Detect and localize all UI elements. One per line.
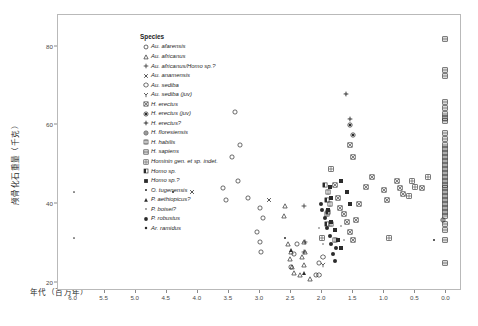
data-point [354,217,359,222]
legend-title: Species [140,33,255,40]
legend-item[interactable]: H. erectus [140,99,255,109]
data-point [319,207,324,212]
legend-item[interactable]: Homo sp.? [140,176,255,186]
legend-item[interactable]: Au. afarensis [140,42,255,52]
x-axis-tick-mark [73,290,74,293]
data-point [443,237,448,242]
x-axis-tick-mark [228,290,229,293]
legend-item[interactable]: P. aethiopicus? [140,195,255,205]
data-point [329,196,334,201]
x-axis-tick-mark [414,290,415,293]
data-point [443,170,448,175]
data-point [443,146,448,151]
legend-item-label: Au. africanus [151,52,185,61]
square-filled-icon [140,176,151,185]
data-point [317,226,321,230]
data-point [301,249,306,254]
x-axis-tick-mark [383,290,384,293]
dot-med-icon [140,224,151,233]
data-point [443,111,448,116]
triangle-open-icon [140,52,151,61]
data-point [316,273,321,278]
data-point [443,213,448,218]
legend-item-label: Au. africanus/Homo sp.? [151,62,216,71]
dot-tiny-icon [140,205,151,214]
data-point [324,225,329,230]
x-axis-tick-mark [135,290,136,293]
y-axis-tick-label: 40 [27,200,53,207]
data-point [323,182,328,187]
data-point [443,154,448,159]
legend-item-label: Hominin gen. et sp. indet. [151,157,218,166]
legend-item-label: O. tugenensis [151,186,187,195]
data-point [343,91,348,96]
legend-item-label: H. erectus? [151,119,181,128]
legend-item-label: H. erectus (juv) [151,109,191,118]
data-point [301,271,306,276]
legend-item[interactable]: H. floresiensis [140,128,255,138]
legend-item[interactable]: H. erectus (juv) [140,109,255,119]
legend-item-label: P. robustus [151,214,180,223]
data-point [327,184,332,189]
data-point [339,224,343,228]
legend-item[interactable]: Ar. ramidus [140,224,255,234]
data-point [342,238,346,242]
data-point [260,215,265,220]
y-axis-tick-mark [54,124,57,125]
legend-item[interactable]: O. tugenensis [140,185,255,195]
y-open-icon [140,90,151,99]
x-axis-tick-label: 2.5 [275,294,305,301]
data-point [443,119,448,124]
data-point [443,227,448,232]
legend-item[interactable]: Homo sp. [140,166,255,176]
legend-item-label: P. aethiopicus? [151,195,191,204]
data-point [443,174,448,179]
legend-item[interactable]: H. habilis [140,138,255,148]
data-point [257,239,262,244]
data-point [321,255,326,260]
legend-item[interactable]: Au. africanus/Homo sp.? [140,61,255,71]
legend-item[interactable]: P. robustus [140,214,255,224]
legend-item[interactable]: H. sapiens [140,147,255,157]
data-point [410,178,415,183]
data-point [326,209,331,214]
data-point [347,117,352,122]
legend-item[interactable]: Au. africanus [140,52,255,62]
data-point [443,198,448,203]
data-point [443,209,448,214]
data-point [443,190,448,195]
circle-filled-ring-icon [140,109,151,118]
x-axis-tick-label: 0.0 [430,294,460,301]
data-point [291,251,296,256]
data-point [331,251,336,256]
x-icon [140,71,151,80]
data-point [313,273,318,278]
legend-item[interactable]: Au. sediba (juv) [140,90,255,100]
data-point [351,154,356,159]
data-point [443,158,448,163]
data-point [301,263,306,268]
data-point [332,259,337,264]
cross-diamond-icon [140,119,151,128]
data-point [443,202,448,207]
x-axis-tick-label: 5.5 [89,294,119,301]
data-point [443,73,448,78]
data-point [301,239,306,244]
legend-item-label: Au. afarensis [151,42,185,51]
legend-item[interactable]: P. boisei? [140,204,255,214]
data-point [432,238,436,242]
legend-item[interactable]: H. erectus? [140,119,255,129]
x-axis-tick-label: 3.0 [244,294,274,301]
legend-item-label: Ar. ramidus [151,224,181,233]
data-point [382,188,387,193]
x-axis-tick-mark [445,290,446,293]
legend-item-label: H. habilis [151,138,175,147]
triangle-filled-icon [140,195,151,204]
legend-item[interactable]: Au. sediba [140,80,255,90]
data-point [443,131,448,136]
legend-item[interactable]: Au. anamensis [140,71,255,81]
legend-item[interactable]: Hominin gen. et sp. indet. [140,157,255,167]
y-axis-tick-label: 80 [27,42,53,49]
data-point [332,237,337,242]
data-point [259,249,264,254]
